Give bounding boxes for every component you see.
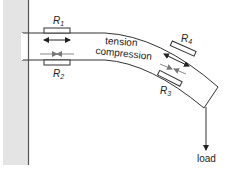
gauge-r2: R2 [44, 60, 70, 80]
wall [3, 0, 29, 165]
load-label: load [197, 153, 216, 164]
svg-text:R2: R2 [53, 68, 64, 80]
svg-text:R4: R4 [181, 33, 192, 45]
gauge-r4: R4 [170, 33, 196, 56]
cantilever-diagram: R1 R2 tension compression R4 R3 load [0, 0, 233, 171]
gauge-r1: R1 [44, 15, 70, 33]
svg-text:R3: R3 [160, 85, 171, 97]
svg-text:R1: R1 [53, 15, 64, 27]
